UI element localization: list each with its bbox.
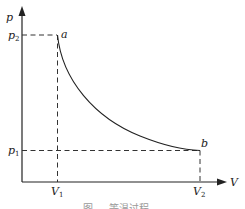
v2-label: V2 xyxy=(193,185,205,199)
guide-lines xyxy=(22,35,200,182)
process-curve xyxy=(58,35,201,151)
v1-label: V1 xyxy=(51,185,63,199)
p1-label: p1 xyxy=(8,144,20,158)
pv-diagram: p V p2 p1 V1 V2 a b 图 … 等温过程 xyxy=(0,0,245,209)
p-axis-arrow-icon xyxy=(19,6,26,16)
point-b-label: b xyxy=(201,137,208,150)
v-axis-arrow-icon xyxy=(217,179,227,186)
p-axis-label: p xyxy=(6,11,13,24)
v-axis-label: V xyxy=(230,176,239,189)
p2-label: p2 xyxy=(8,29,20,43)
axes xyxy=(22,14,218,182)
figure-caption: 图 … 等温过程 xyxy=(83,202,149,209)
point-a-label: a xyxy=(61,28,68,41)
